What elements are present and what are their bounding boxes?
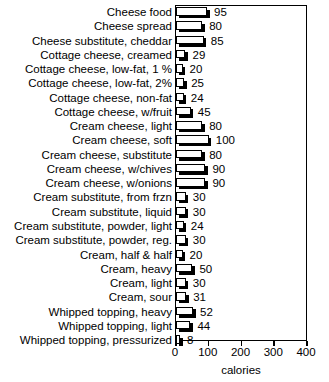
bar bbox=[176, 235, 189, 246]
bar bbox=[176, 78, 187, 89]
bar-value-label: 30 bbox=[193, 276, 206, 290]
bar-value-label: 45 bbox=[198, 105, 211, 119]
bar-category-label: Cheese food bbox=[107, 5, 172, 19]
bar-value-label: 24 bbox=[191, 91, 204, 105]
bar-category-label: Cream, light bbox=[110, 276, 172, 290]
bar-face bbox=[176, 50, 185, 59]
bar bbox=[176, 121, 205, 132]
bar-face bbox=[176, 235, 186, 244]
bar-face bbox=[176, 221, 184, 230]
bar-row: Cottage cheese, low-fat, 1 %20 bbox=[0, 62, 329, 76]
bar-row: Cream substitute, from frzn30 bbox=[0, 190, 329, 204]
bar-category-label: Cream, half & half bbox=[80, 248, 172, 262]
bar-value-label: 50 bbox=[199, 262, 212, 276]
bar-face bbox=[176, 192, 186, 201]
bar-category-label: Cream substitute, liquid bbox=[52, 205, 172, 219]
bar bbox=[176, 250, 186, 261]
bar-face bbox=[176, 207, 186, 216]
bar-value-label: 20 bbox=[190, 248, 203, 262]
bar-category-label: Cream substitute, powder, reg. bbox=[15, 233, 172, 247]
bar-value-label: 30 bbox=[193, 233, 206, 247]
bar-face bbox=[176, 307, 193, 316]
bar-category-label: Cottage cheese, low-fat, 1 % bbox=[25, 62, 172, 76]
bar-row: Cheese substitute, cheddar85 bbox=[0, 34, 329, 48]
bar-category-label: Cottage cheese, creamed bbox=[40, 48, 172, 62]
bar-row: Whipped topping, light44 bbox=[0, 319, 329, 333]
bar-row: Cream cheese, soft100 bbox=[0, 133, 329, 147]
bar bbox=[176, 93, 187, 104]
bar-value-label: 80 bbox=[209, 119, 222, 133]
bar bbox=[176, 264, 195, 275]
bar-row: Cottage cheese, low-fat, 2%25 bbox=[0, 76, 329, 90]
bar-face bbox=[176, 264, 192, 273]
bar-row: Cream cheese, w/chives90 bbox=[0, 162, 329, 176]
bar-face bbox=[176, 178, 205, 187]
bar-face bbox=[176, 164, 205, 173]
bar bbox=[176, 221, 187, 232]
bar bbox=[176, 178, 208, 189]
bar-category-label: Cheese substitute, cheddar bbox=[32, 34, 172, 48]
x-axis-label: calories bbox=[175, 364, 307, 376]
bar-face bbox=[176, 121, 202, 130]
bar-value-label: 90 bbox=[212, 162, 225, 176]
bar-category-label: Cream substitute, from frzn bbox=[33, 190, 172, 204]
bar-value-label: 20 bbox=[190, 62, 203, 76]
bar-category-label: Cottage cheese, non-fat bbox=[49, 91, 172, 105]
bar-face bbox=[176, 36, 204, 45]
bar bbox=[176, 164, 208, 175]
bar-row: Cream substitute, liquid30 bbox=[0, 205, 329, 219]
bar-face bbox=[176, 78, 184, 87]
bar-value-label: 80 bbox=[209, 148, 222, 162]
bar-face bbox=[176, 250, 183, 259]
bar-face bbox=[176, 93, 184, 102]
bar-category-label: Cream, sour bbox=[109, 290, 172, 304]
bar-face bbox=[176, 135, 209, 144]
chart-title bbox=[0, 0, 329, 4]
bar-face bbox=[176, 321, 190, 330]
bar-value-label: 85 bbox=[211, 34, 224, 48]
bar-row: Cottage cheese, non-fat24 bbox=[0, 91, 329, 105]
bar-value-label: 31 bbox=[193, 290, 206, 304]
bar-value-label: 80 bbox=[209, 19, 222, 33]
bar-category-label: Whipped topping, heavy bbox=[49, 305, 172, 319]
bar-value-label: 30 bbox=[193, 205, 206, 219]
bar-category-label: Cottage cheese, w/fruit bbox=[54, 105, 172, 119]
bar-value-label: 29 bbox=[192, 48, 205, 62]
bar-value-label: 90 bbox=[212, 176, 225, 190]
bar-row: Cream substitute, powder, light24 bbox=[0, 219, 329, 233]
bar-face bbox=[176, 150, 202, 159]
bar-face bbox=[176, 107, 191, 116]
bar bbox=[176, 135, 212, 146]
bar-value-label: 25 bbox=[191, 76, 204, 90]
bar-chart: Cheese food95Cheese spread80Cheese subst… bbox=[0, 0, 329, 382]
bar bbox=[176, 150, 205, 161]
bar-face bbox=[176, 278, 186, 287]
bar-row: Cream cheese, light80 bbox=[0, 119, 329, 133]
x-tick-label: 400 bbox=[286, 346, 326, 358]
bar-row: Cream substitute, powder, reg.30 bbox=[0, 233, 329, 247]
bar-category-label: Cream substitute, powder, light bbox=[14, 219, 172, 233]
bar-category-label: Cheese spread bbox=[94, 19, 172, 33]
bar-row: Whipped topping, heavy52 bbox=[0, 305, 329, 319]
bar bbox=[176, 21, 205, 32]
bar bbox=[176, 321, 193, 332]
bar-category-label: Cream cheese, w/chives bbox=[47, 162, 172, 176]
bar-face bbox=[176, 21, 202, 30]
bar-row: Cream cheese, substitute80 bbox=[0, 148, 329, 162]
bar-row: Cottage cheese, w/fruit45 bbox=[0, 105, 329, 119]
bar-value-label: 100 bbox=[216, 133, 235, 147]
bar-face bbox=[176, 7, 207, 16]
bar bbox=[176, 307, 196, 318]
bar-row: Cream, half & half20 bbox=[0, 248, 329, 262]
bar-value-label: 30 bbox=[193, 190, 206, 204]
bar bbox=[176, 192, 189, 203]
bar-category-label: Cream cheese, soft bbox=[72, 133, 172, 147]
bar-category-label: Whipped topping, pressurized bbox=[20, 333, 172, 347]
bar-category-label: Cream cheese, w/onions bbox=[45, 176, 172, 190]
bar bbox=[176, 36, 207, 47]
bar-rows: Cheese food95Cheese spread80Cheese subst… bbox=[0, 5, 329, 347]
bar bbox=[176, 207, 189, 218]
bar-row: Cream, heavy50 bbox=[0, 262, 329, 276]
bar-category-label: Cream cheese, substitute bbox=[42, 148, 172, 162]
bar-face bbox=[176, 64, 183, 73]
